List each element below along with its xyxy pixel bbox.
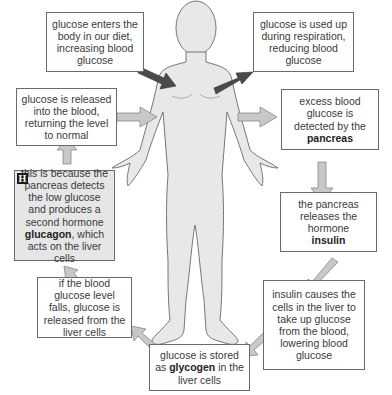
box-blood-glucose-falls: if the blood glucose level falls, glucos… [37, 277, 132, 338]
box-glucagon-explanation: H this is because the pancreas detects t… [14, 170, 115, 261]
diet-text: glucose enters the body in our diet, inc… [51, 18, 139, 67]
box-glucose-from-diet: glucose enters the body in our diet, inc… [46, 12, 144, 72]
released-normal-text: glucose is released into the blood, retu… [21, 93, 112, 142]
glycogen-text: glucose is stored as glycogen in the liv… [154, 349, 245, 386]
level-falls-text: if the blood glucose level falls, glucos… [42, 277, 127, 338]
insulin-release-text: the pancreas releases the hormone insuli… [285, 198, 372, 247]
box-glucose-released-normal: glucose is released into the blood, retu… [16, 88, 117, 146]
insulin-effect-text: insulin causes the cells in the liver to… [268, 288, 360, 361]
box-glucose-used-respiration: glucose is used up during respiration, r… [253, 12, 354, 72]
excess-detected-pre: excess blood glucose is detected by the [294, 95, 366, 131]
higher-tier-badge: H [17, 173, 28, 184]
box-pancreas-releases-insulin: the pancreas releases the hormone insuli… [280, 192, 377, 252]
box-stored-as-glycogen: glucose is stored as glycogen in the liv… [149, 344, 250, 391]
excess-detected-text: excess blood glucose is detected by the … [286, 95, 374, 144]
glucagon-text: this is because the pancreas detects the… [19, 167, 110, 265]
glucagon-term: glucagon [25, 228, 72, 240]
pancreas-term: pancreas [307, 132, 353, 144]
glucose-regulation-diagram: glucose enters the body in our diet, inc… [0, 0, 392, 395]
insulin-term: insulin [312, 234, 346, 246]
box-excess-glucose-detected: excess blood glucose is detected by the … [281, 89, 379, 150]
respiration-text: glucose is used up during respiration, r… [258, 18, 349, 67]
glucagon-pre: this is because the pancreas detects the… [21, 167, 108, 228]
box-insulin-effect: insulin causes the cells in the liver to… [263, 280, 365, 370]
arrow-body-to-excess [238, 107, 277, 127]
insulin-release-pre: the pancreas releases the hormone [298, 198, 359, 234]
glycogen-term: glycogen [169, 361, 215, 373]
